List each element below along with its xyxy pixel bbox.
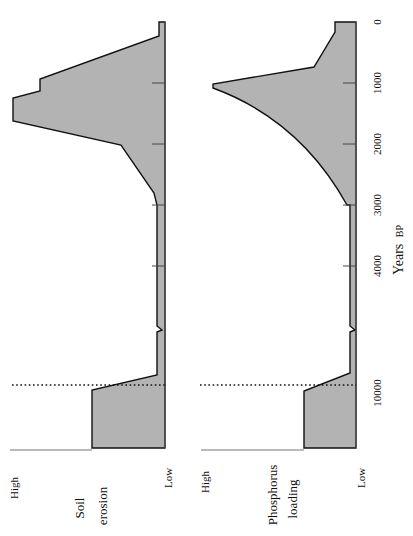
tick-label-1000: 1000 [371,72,383,95]
phos-low-label: Low [355,468,367,488]
soil-title-line1: Soil [72,497,87,518]
svg-text:Years BP: Years BP [391,225,406,275]
tick-label-10000: 10000 [371,379,383,407]
phosphorus-loading-area [213,22,356,448]
soil-erosion-area [13,22,165,448]
soil-erosion-panel [10,22,165,450]
soil-title-line2: erosion [95,486,110,525]
x-axis-title-small: BP [394,225,405,238]
tick-label-2000: 2000 [371,133,383,156]
x-axis-title-main: Years [391,244,406,275]
tick-label-0: 0 [371,19,383,25]
tick-label-4000: 4000 [371,255,383,278]
soil-high-label: High [8,477,20,500]
soil-low-label: Low [162,468,174,488]
phos-title-line1: Phosphorus [265,465,280,526]
phos-title-line2: loading [285,479,300,518]
phos-high-label: High [199,471,211,494]
chart: 0 1000 2000 3000 4000 10000 Years BP Hig… [0,0,413,536]
tick-label-3000: 3000 [371,194,383,217]
x-axis-title: Years BP [391,225,406,275]
time-axis-labels: 0 1000 2000 3000 4000 10000 [371,19,383,407]
phosphorus-loading-panel [200,22,356,450]
